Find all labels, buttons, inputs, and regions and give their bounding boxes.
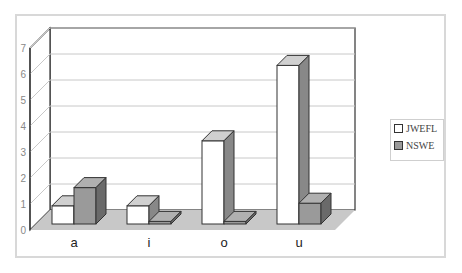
y-tick-label: 0: [20, 225, 26, 236]
legend-label: JWEFL: [406, 123, 437, 134]
bar-o-jwefl: [202, 131, 234, 224]
chart-legend: JWEFL NSWE: [390, 119, 444, 161]
bar-u-nswe: [299, 193, 331, 224]
y-tick-label: 1: [20, 199, 26, 210]
y-tick-label: 4: [20, 121, 26, 132]
x-category-label: o: [220, 235, 227, 250]
y-tick-label: 7: [20, 43, 26, 54]
y-tick-label: 5: [20, 95, 26, 106]
legend-swatch-jwefl: [394, 124, 403, 133]
x-category-label: u: [295, 235, 302, 250]
legend-item-jwefl: JWEFL: [391, 120, 443, 137]
legend-label: NSWE: [406, 140, 434, 151]
y-tick-label: 3: [20, 147, 26, 158]
y-tick-label: 6: [20, 69, 26, 80]
legend-swatch-nswe: [394, 141, 403, 150]
x-category-label: a: [70, 235, 78, 250]
bar-a-nswe: [74, 178, 106, 224]
y-tick-label: 2: [20, 173, 26, 184]
legend-item-nswe: NSWE: [391, 137, 443, 154]
x-category-label: i: [148, 235, 151, 250]
